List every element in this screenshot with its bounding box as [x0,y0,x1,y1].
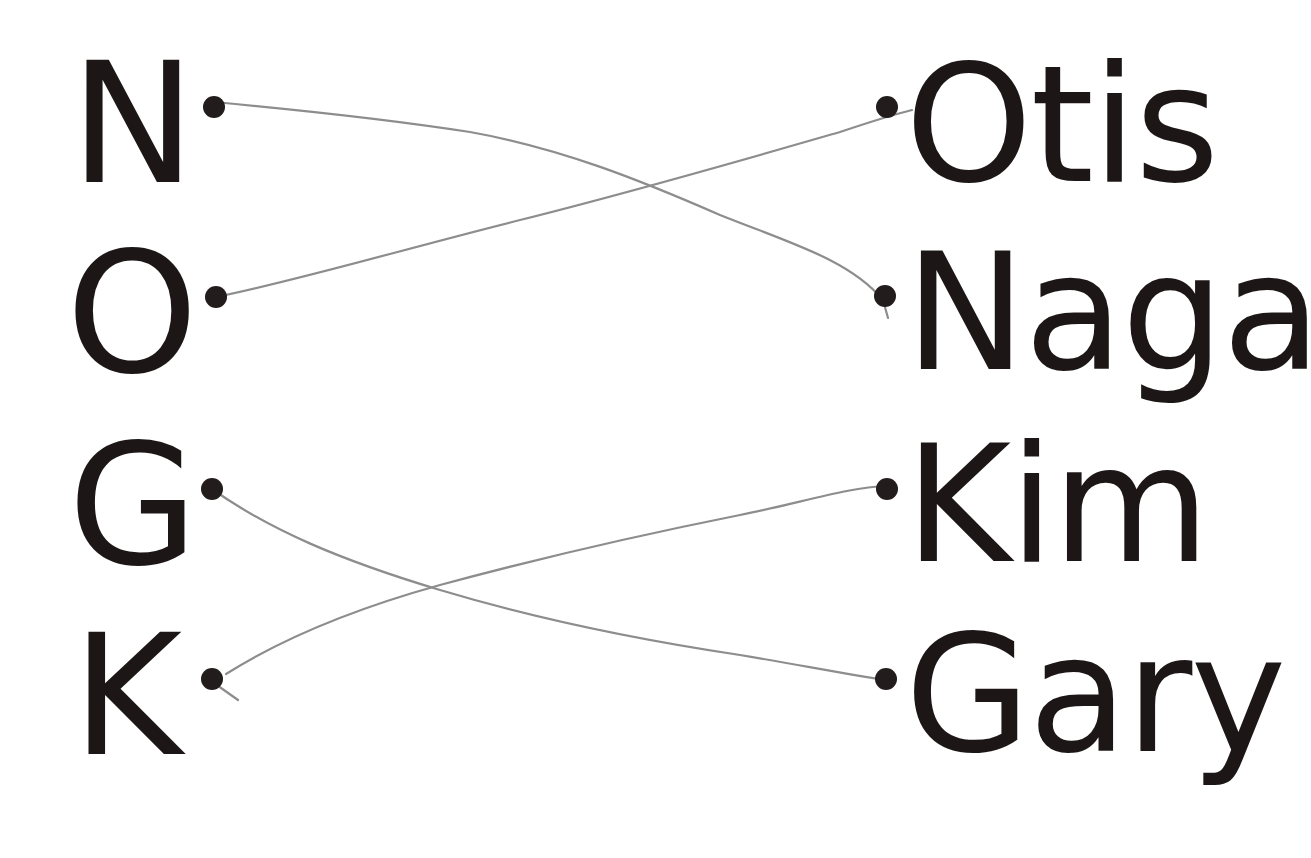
line-k-to-kim [214,486,886,700]
dot-gary[interactable] [875,668,897,690]
letter-k: K [72,612,182,780]
name-gary: Gary [905,614,1284,776]
name-kim: Kim [905,424,1208,586]
name-naga: Naga [905,232,1311,394]
name-otis: Otis [905,44,1217,206]
dot-k[interactable] [201,668,223,690]
dot-otis[interactable] [876,96,898,118]
line-o-to-otis [216,110,912,297]
line-n-to-naga [214,102,888,318]
dot-o[interactable] [205,286,227,308]
letter-g: G [68,422,198,590]
dot-n[interactable] [203,96,225,118]
letter-n: N [70,40,196,208]
line-g-to-gary [212,489,886,680]
dot-kim[interactable] [876,478,898,500]
dot-naga[interactable] [874,285,896,307]
letter-o: O [66,230,198,398]
dot-g[interactable] [201,478,223,500]
